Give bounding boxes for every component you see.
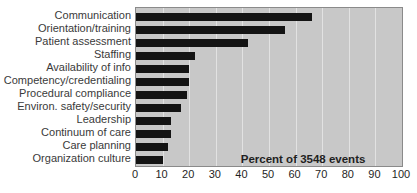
- category-label: Orientation/training: [0, 23, 131, 34]
- bar-row: [136, 130, 402, 138]
- tick-label: 0: [132, 168, 138, 180]
- bar-row: [136, 78, 402, 86]
- bar: [136, 39, 248, 47]
- bar-row: [136, 26, 402, 34]
- category-label: Communication: [0, 10, 131, 21]
- bar-row: [136, 39, 402, 47]
- category-label: Procedural compliance: [0, 88, 131, 99]
- bar: [136, 26, 285, 34]
- bar: [136, 91, 187, 99]
- bar-row: [136, 52, 402, 60]
- tick-label: 70: [315, 168, 327, 180]
- bars-container: [136, 8, 402, 166]
- category-label: Care planning: [0, 140, 131, 151]
- bar-row: [136, 117, 402, 125]
- x-axis-tick-labels: 0102030405060708090100: [135, 168, 401, 182]
- tick-label: 40: [235, 168, 247, 180]
- plot-area: Percent of 3548 events: [135, 7, 403, 167]
- category-labels: CommunicationOrientation/trainingPatient…: [0, 7, 131, 165]
- events-annotation: Percent of 3548 events: [241, 153, 366, 165]
- bar-row: [136, 13, 402, 21]
- tick-label: 10: [155, 168, 167, 180]
- bar: [136, 156, 163, 164]
- bar: [136, 143, 168, 151]
- tick-label: 30: [209, 168, 221, 180]
- bar: [136, 130, 171, 138]
- category-label: Patient assessment: [0, 36, 131, 47]
- bar-row: [136, 143, 402, 151]
- bar: [136, 78, 189, 86]
- root-cause-bar-chart: CommunicationOrientation/trainingPatient…: [0, 0, 417, 193]
- bar-row: [136, 104, 402, 112]
- tick-label: 20: [182, 168, 194, 180]
- tick-label: 80: [342, 168, 354, 180]
- tick-label: 100: [392, 168, 410, 180]
- bar: [136, 104, 181, 112]
- tick-label: 90: [368, 168, 380, 180]
- category-label: Leadership: [0, 114, 131, 125]
- tick-label: 60: [288, 168, 300, 180]
- bar: [136, 65, 189, 73]
- category-label: Environ. safety/security: [0, 101, 131, 112]
- category-label: Staffing: [0, 49, 131, 60]
- bar: [136, 13, 312, 21]
- tick-label: 50: [262, 168, 274, 180]
- category-label: Organization culture: [0, 153, 131, 164]
- category-label: Availability of info: [0, 62, 131, 73]
- bar: [136, 52, 195, 60]
- category-label: Continuum of care: [0, 127, 131, 138]
- bar-row: [136, 65, 402, 73]
- bar-row: [136, 91, 402, 99]
- category-label: Competency/credentialing: [0, 75, 131, 86]
- bar: [136, 117, 171, 125]
